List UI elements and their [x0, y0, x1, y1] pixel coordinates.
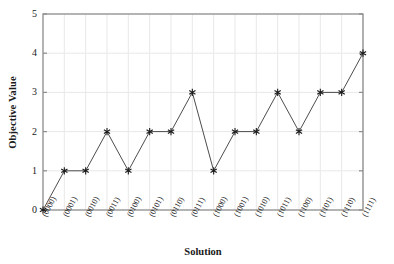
y-tick-label: 2 [21, 127, 37, 137]
axis-ticks [43, 14, 363, 210]
y-axis-title: Objective Value [2, 14, 22, 210]
y-tick-label: 0 [21, 205, 37, 215]
plot-axes-frame [43, 14, 363, 210]
y-tick-label: 3 [21, 87, 37, 97]
chart-figure: Objective Value Solution 012345 (0000)(0… [0, 0, 394, 264]
x-axis-title: Solution [43, 246, 363, 257]
y-tick-label: 4 [21, 48, 37, 58]
gridlines [43, 14, 363, 210]
plot-canvas [0, 0, 394, 264]
y-tick-label: 5 [21, 9, 37, 19]
y-tick-label: 1 [21, 166, 37, 176]
